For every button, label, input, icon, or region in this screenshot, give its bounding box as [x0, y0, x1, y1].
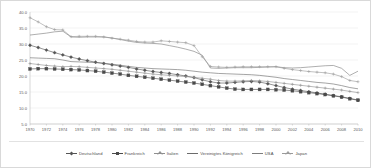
- series-marker: [61, 53, 64, 56]
- x-axis-tick-label: 1970: [25, 127, 35, 132]
- series-marker: [258, 88, 261, 91]
- series-marker: [225, 80, 228, 83]
- x-axis-tick-label: 1990: [189, 127, 199, 132]
- series-marker: [37, 20, 40, 23]
- series-marker: [94, 70, 97, 73]
- legend-item-vereinigtes-k-nigreich[interactable]: Vereinigtes Königreich: [187, 151, 243, 156]
- x-axis-tick-label: 1972: [42, 127, 52, 132]
- series-marker: [37, 63, 40, 66]
- series-marker: [291, 83, 294, 86]
- y-axis-tick-label: 20.0: [19, 74, 28, 79]
- y-axis-tick-label: 5.0: [21, 122, 27, 127]
- series-marker: [152, 73, 155, 76]
- series-marker: [29, 62, 32, 65]
- series-marker: [283, 82, 286, 85]
- x-axis-tick-label: 1976: [75, 127, 85, 132]
- series-marker: [348, 90, 351, 93]
- series-marker: [111, 37, 114, 40]
- series-marker: [78, 65, 81, 68]
- legend-item-label: Italien: [167, 151, 179, 156]
- series-marker: [291, 89, 294, 92]
- series-marker: [283, 89, 286, 92]
- series-marker: [78, 68, 81, 71]
- series-marker: [234, 66, 237, 69]
- series-marker: [266, 80, 269, 83]
- series-marker: [217, 85, 220, 88]
- legend-swatch-icon: [112, 151, 123, 156]
- series-marker: [69, 55, 72, 58]
- legend-swatch-icon: [66, 151, 77, 156]
- legend-item-deutschland[interactable]: Deutschland: [66, 151, 103, 156]
- series-marker: [332, 73, 335, 76]
- series-marker: [37, 46, 40, 49]
- y-axis-tick-label: 40.0: [19, 10, 28, 15]
- series-marker: [275, 81, 278, 84]
- series-marker: [135, 75, 138, 78]
- legend-item-japan[interactable]: Japan: [282, 151, 307, 156]
- series-marker: [168, 40, 171, 43]
- series-marker: [340, 75, 343, 78]
- x-axis-tick-label: 1978: [91, 127, 101, 132]
- x-axis-tick-label: 2010: [353, 127, 363, 132]
- series-marker: [299, 84, 302, 87]
- series-marker: [119, 38, 122, 41]
- series-marker: [348, 97, 351, 100]
- series-marker: [168, 79, 171, 82]
- series-marker: [357, 80, 360, 83]
- series-marker: [316, 71, 319, 74]
- x-axis-tick-label: 1998: [255, 127, 265, 132]
- series-marker: [324, 93, 327, 96]
- series-marker: [291, 68, 294, 71]
- series-marker: [225, 66, 228, 69]
- x-axis-tick-label: 2000: [271, 127, 281, 132]
- x-axis-tick-label: 2006: [321, 127, 331, 132]
- legend-item-italien[interactable]: Italien: [154, 151, 179, 156]
- legend-swatch-icon: [154, 151, 165, 156]
- series-marker: [70, 68, 73, 71]
- series-marker: [176, 80, 179, 83]
- legend-swatch-icon: [187, 151, 198, 156]
- series-marker: [266, 88, 269, 91]
- series-marker: [127, 74, 130, 77]
- series-marker: [152, 77, 155, 80]
- series-marker: [184, 81, 187, 84]
- series-marker: [45, 48, 48, 51]
- series-marker: [168, 74, 171, 77]
- series-marker: [217, 79, 220, 82]
- legend-item-label: Vereinigtes Königreich: [200, 151, 243, 156]
- series-marker: [94, 35, 97, 38]
- legend-item-frankreich[interactable]: Frankreich: [112, 151, 145, 156]
- series-marker: [111, 72, 114, 75]
- series-marker: [332, 94, 335, 97]
- y-axis-tick-label: 35.0: [19, 26, 28, 31]
- x-axis-tick-label: 2004: [304, 127, 314, 132]
- series-marker: [160, 39, 163, 42]
- x-axis-tick-label: 1984: [140, 127, 150, 132]
- legend-item-usa[interactable]: USA: [252, 151, 274, 156]
- legend-item-label: Frankreich: [125, 151, 145, 156]
- series-marker: [299, 90, 302, 93]
- series-marker: [29, 67, 32, 70]
- x-axis-tick-label: 1986: [157, 127, 167, 132]
- series-marker: [143, 72, 146, 75]
- series-marker: [70, 65, 73, 68]
- series-marker: [110, 63, 113, 66]
- series-marker: [94, 67, 97, 70]
- series-marker: [266, 65, 269, 68]
- series-marker: [86, 35, 89, 38]
- series-marker: [332, 88, 335, 91]
- plot-area: 40.035.030.025.020.015.010.05.0197019721…: [9, 7, 364, 139]
- series-marker: [160, 78, 163, 81]
- series-marker: [102, 67, 105, 70]
- series-marker: [340, 96, 343, 99]
- series-marker: [193, 82, 196, 85]
- y-axis-tick-label: 10.0: [19, 106, 28, 111]
- x-axis-tick-label: 2002: [288, 127, 298, 132]
- x-axis-tick-label: 1982: [124, 127, 134, 132]
- x-axis-tick-label: 1992: [206, 127, 216, 132]
- x-axis-tick-label: 1988: [173, 127, 183, 132]
- series-marker: [234, 88, 237, 91]
- series-marker: [307, 70, 310, 73]
- series-marker: [242, 88, 245, 91]
- series-marker: [274, 84, 277, 87]
